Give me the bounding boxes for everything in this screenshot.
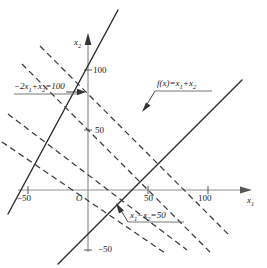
origin-label: O xyxy=(76,194,83,203)
constraint-1-part-0: −2x xyxy=(14,81,29,91)
y-tick-label--50: −50 xyxy=(98,245,112,254)
objective-label: f(x)=x1+x2 xyxy=(157,79,196,90)
x-tick-label-100: 100 xyxy=(198,194,212,203)
constraint-2-part-4: =50 xyxy=(151,210,166,220)
x-tick-label--50: −50 xyxy=(17,194,31,203)
objective-part-0: f(x)=x xyxy=(157,78,180,88)
graph-figure xyxy=(0,0,267,268)
y-axis-label: x2 xyxy=(74,38,81,49)
x-axis-label-sub: 1 xyxy=(251,200,254,207)
constraint-2-part-2: −x xyxy=(137,210,147,220)
objective-part-2: +x xyxy=(183,78,193,88)
y-tick-label-50: 50 xyxy=(95,126,104,135)
constraint-1-part-4: =100 xyxy=(45,81,65,91)
y-axis-label-sub: 2 xyxy=(78,42,81,49)
constraint-1-part-2: +x xyxy=(32,81,42,91)
objective-sub-3: 2 xyxy=(193,83,196,90)
constraint-1-label: −2x1+x2=100 xyxy=(14,82,65,93)
constraint-2-label: x1−x2=50 xyxy=(130,211,166,222)
y-tick-label-100: 100 xyxy=(93,66,107,75)
x-axis-label: x1 xyxy=(247,196,254,207)
figure-background xyxy=(0,0,267,268)
x-tick-label-50: 50 xyxy=(144,194,153,203)
